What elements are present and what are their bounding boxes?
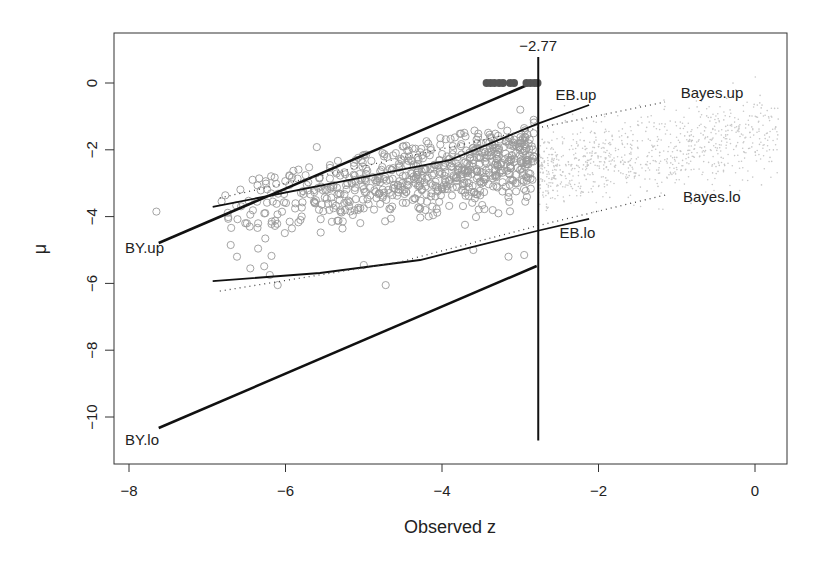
null-dot xyxy=(744,152,746,154)
null-dot xyxy=(620,161,622,163)
null-dot xyxy=(609,153,611,155)
null-dot xyxy=(624,122,626,124)
null-dot xyxy=(592,151,594,153)
data-point xyxy=(425,140,432,147)
null-dot xyxy=(652,160,654,162)
null-dot xyxy=(733,149,735,151)
null-dot xyxy=(713,145,715,147)
null-dot xyxy=(738,119,740,121)
null-dot xyxy=(589,152,591,154)
null-dot xyxy=(688,140,690,142)
null-dot xyxy=(565,120,567,122)
null-dot xyxy=(556,138,558,140)
null-dot xyxy=(610,181,612,183)
null-dot xyxy=(560,183,562,185)
null-dot xyxy=(628,197,630,199)
null-dot xyxy=(551,178,553,180)
null-dot xyxy=(573,154,575,156)
null-dot xyxy=(726,141,728,143)
null-dot xyxy=(601,121,603,123)
null-dot xyxy=(735,146,737,148)
null-dot xyxy=(604,143,606,145)
null-dot xyxy=(656,128,658,130)
null-dot xyxy=(577,144,579,146)
null-dot xyxy=(540,157,542,159)
null-dot xyxy=(595,139,597,141)
null-dot xyxy=(764,134,766,136)
data-point xyxy=(290,167,297,174)
bayes-lo-label: Bayes.lo xyxy=(683,188,741,205)
null-dot xyxy=(604,186,606,188)
null-dot xyxy=(608,161,610,163)
null-dot xyxy=(725,138,727,140)
null-dot xyxy=(585,179,587,181)
null-dot xyxy=(621,143,623,145)
null-dot xyxy=(749,147,751,149)
null-dot xyxy=(763,155,765,157)
null-dot xyxy=(759,144,761,146)
null-dot xyxy=(776,149,778,151)
null-dot xyxy=(749,131,751,133)
data-point xyxy=(306,164,313,171)
null-dot xyxy=(580,192,582,194)
null-dot xyxy=(572,175,574,177)
null-dot xyxy=(670,142,672,144)
null-dot xyxy=(639,105,641,107)
null-dot xyxy=(604,113,606,115)
null-dot xyxy=(585,156,587,158)
null-dot xyxy=(654,145,656,147)
null-dot xyxy=(711,165,713,167)
null-dot xyxy=(712,172,714,174)
null-dot xyxy=(723,111,725,113)
null-dot xyxy=(605,131,607,133)
null-dot xyxy=(611,136,613,138)
null-dot xyxy=(723,119,725,121)
threshold-label: −2.77 xyxy=(519,37,557,54)
null-dot xyxy=(688,157,690,159)
null-dot xyxy=(759,95,761,97)
null-dot xyxy=(561,181,563,183)
null-dot xyxy=(646,164,648,166)
null-dot xyxy=(544,167,546,169)
null-dot xyxy=(624,147,626,149)
null-dot xyxy=(569,173,571,175)
data-point xyxy=(517,106,524,113)
null-dot xyxy=(582,120,584,122)
null-dot xyxy=(614,160,616,162)
null-dot xyxy=(547,163,549,165)
null-dot xyxy=(758,154,760,156)
null-dot xyxy=(739,167,741,169)
null-dot xyxy=(693,136,695,138)
null-dot xyxy=(725,126,727,128)
null-dot xyxy=(553,176,555,178)
null-dot xyxy=(589,142,591,144)
null-dot xyxy=(647,116,649,118)
null-dot xyxy=(767,145,769,147)
null-dot xyxy=(674,160,676,162)
null-dot xyxy=(620,172,622,174)
null-dot xyxy=(548,154,550,156)
null-dot xyxy=(735,132,737,134)
null-dot xyxy=(731,124,733,126)
null-dot xyxy=(578,160,580,162)
null-dot xyxy=(563,138,565,140)
null-dot xyxy=(721,129,723,131)
null-dot xyxy=(592,191,594,193)
null-dot xyxy=(625,176,627,178)
null-dot xyxy=(758,128,760,130)
null-dot xyxy=(574,157,576,159)
data-point xyxy=(233,253,240,260)
null-dot xyxy=(633,205,635,207)
null-dot xyxy=(613,183,615,185)
null-dot xyxy=(734,127,736,129)
data-point xyxy=(234,216,241,223)
data-point xyxy=(352,196,359,203)
null-dot xyxy=(654,160,656,162)
null-dot xyxy=(647,155,649,157)
null-dot xyxy=(646,190,648,192)
null-dot xyxy=(669,167,671,169)
null-dot xyxy=(602,142,604,144)
null-dot xyxy=(618,149,620,151)
null-dot xyxy=(734,155,736,157)
null-dot xyxy=(707,179,709,181)
